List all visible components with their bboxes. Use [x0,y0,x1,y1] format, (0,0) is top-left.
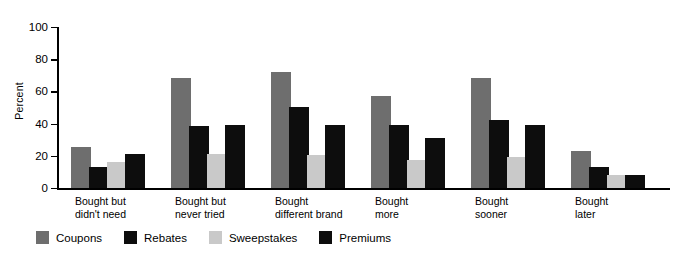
bar [89,167,109,188]
legend-item[interactable]: Sweepstakes [209,231,297,244]
bar [171,78,191,188]
x-axis-category-label: Bought more [375,195,408,220]
y-tick-mark [51,27,57,28]
x-axis-category-label: Bought sooner [475,195,508,220]
legend-item[interactable]: Coupons [36,231,102,244]
x-axis-category-label: Bought later [575,195,608,220]
y-tick-label: 20 [35,150,48,162]
legend-swatch-icon [209,231,222,244]
bar [289,107,309,188]
bar [371,96,391,188]
y-tick-mark [51,124,57,125]
bar [189,126,209,188]
y-tick-label: 40 [35,118,48,130]
y-axis-title: Percent [13,66,25,136]
bar [625,175,645,188]
bar-group [271,27,343,188]
x-axis-line [57,188,670,190]
y-tick-mark [51,156,57,157]
legend-swatch-icon [36,231,49,244]
bar [471,78,491,188]
bar [425,138,445,188]
bar [507,157,527,188]
y-tick-mark [51,59,57,60]
legend-label: Coupons [56,232,102,244]
y-axis-line [57,27,59,188]
y-tick-mark [51,91,57,92]
y-tick-label: 60 [35,85,48,97]
plot-area: 020406080100 [57,27,670,188]
legend-label: Rebates [144,232,187,244]
x-axis-category-label: Bought but didn't need [75,195,126,220]
bar-group [71,27,143,188]
bar [125,154,145,188]
chart-legend: CouponsRebatesSweepstakesPremiums [36,231,413,244]
x-axis-category-label: Bought different brand [275,195,343,220]
y-tick-label: 100 [29,21,48,33]
y-tick-mark [51,188,57,189]
bar-group [471,27,543,188]
bar [571,151,591,188]
bar [207,154,227,188]
bar [71,147,91,188]
legend-item[interactable]: Premiums [319,231,391,244]
bar [325,125,345,188]
bar [307,155,327,188]
bar-group [571,27,643,188]
bar-group [171,27,243,188]
y-tick-label: 0 [42,182,48,194]
legend-swatch-icon [319,231,332,244]
bar [107,162,127,188]
bar [525,125,545,188]
bar [589,167,609,188]
legend-label: Premiums [339,232,391,244]
bar [607,175,627,188]
legend-label: Sweepstakes [229,232,297,244]
y-tick-label: 80 [35,53,48,65]
bar [225,125,245,188]
bar [489,120,509,188]
x-axis-category-label: Bought but never tried [175,195,226,220]
bar [389,125,409,188]
bar [407,160,427,188]
legend-swatch-icon [124,231,137,244]
bar [271,72,291,188]
bar-group [371,27,443,188]
legend-item[interactable]: Rebates [124,231,187,244]
bar-chart: Percent 020406080100 Bought but didn't n… [0,0,682,257]
